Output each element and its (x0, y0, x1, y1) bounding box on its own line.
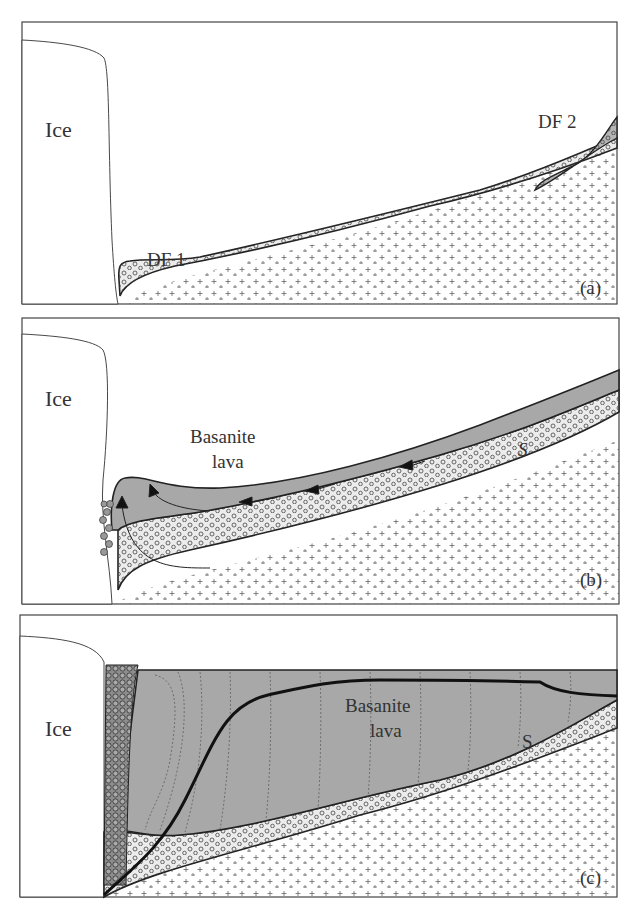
panel-b: Ice Basanite lava S (b) (0, 300, 639, 610)
ice-label: Ice (45, 386, 72, 411)
s-label: S (518, 439, 528, 460)
panel-tag: (a) (580, 277, 601, 299)
df2-label: DF 2 (538, 111, 577, 132)
ice-body (22, 40, 118, 304)
panel-tag: (c) (580, 867, 601, 889)
panel-c: Ice Basanite lava S (c) (0, 600, 639, 915)
panel-a: Ice DF 1 DF 2 (a) (0, 0, 639, 310)
lava-label-2: lava (212, 451, 244, 472)
ice-body (22, 334, 112, 604)
s-label: S (522, 731, 533, 752)
ice-body (20, 636, 104, 897)
ice-label: Ice (45, 716, 72, 741)
lava-label-1: Basanite (190, 426, 255, 447)
df1-label: DF 1 (147, 249, 186, 270)
lava-label-2: lava (370, 720, 402, 741)
ice-label: Ice (45, 117, 72, 142)
lava-label-1: Basanite (345, 695, 410, 716)
panel-tag: (b) (580, 569, 602, 591)
